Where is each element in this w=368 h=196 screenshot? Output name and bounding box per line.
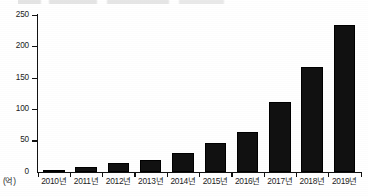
bar-2017 — [269, 102, 291, 172]
y-tick-label-100-wrap: 100 — [0, 105, 29, 114]
x-tick-2016 — [231, 172, 232, 177]
y-tick-label-200-wrap: 200 — [0, 42, 29, 51]
bar-2018 — [301, 67, 323, 171]
y-tick-100 — [32, 109, 38, 110]
y-tick-label-250-wrap: 250 — [0, 11, 29, 20]
y-axis-unit-label: (억) — [3, 177, 16, 186]
x-tick-2014 — [167, 172, 168, 177]
y-tick-label-100: 100 — [3, 105, 29, 113]
bar-2014 — [172, 153, 194, 171]
y-tick-250 — [32, 15, 38, 16]
y-tick-label-150-wrap: 150 — [0, 74, 29, 83]
y-tick-50 — [32, 140, 38, 141]
bar-2016 — [237, 132, 259, 172]
y-tick-200 — [32, 46, 38, 47]
x-tick-2010 — [38, 172, 39, 177]
y-tick-label-50: 50 — [3, 136, 29, 144]
y-tick-150 — [32, 78, 38, 79]
x-label-2019: 2019년 — [322, 177, 367, 186]
y-tick-label-250: 250 — [3, 11, 29, 19]
x-tick-2012 — [102, 172, 103, 177]
x-tick-2018 — [296, 172, 297, 177]
y-tick-label-0: 0 — [3, 168, 29, 176]
x-tick-2015 — [199, 172, 200, 177]
bar-2010 — [43, 170, 65, 172]
x-tick-2011 — [70, 172, 71, 177]
bar-2013 — [140, 160, 162, 172]
y-tick-label-200: 200 — [3, 42, 29, 50]
plot-area: 250 200 150 100 50 0 — [0, 0, 368, 196]
y-axis-line — [37, 14, 38, 173]
x-tick-2017 — [264, 172, 265, 177]
bar-2019 — [334, 25, 356, 172]
bar-2012 — [108, 163, 130, 172]
y-tick-label-50-wrap: 50 — [0, 136, 29, 145]
y-tick-label-150: 150 — [3, 74, 29, 82]
x-tick-end — [361, 172, 362, 177]
bar-chart: 250 200 150 100 50 0 — [0, 0, 368, 196]
x-tick-2013 — [134, 172, 135, 177]
bar-2011 — [75, 167, 97, 171]
bar-2015 — [205, 143, 227, 172]
y-tick-label-0-wrap: 0 — [0, 168, 29, 177]
x-tick-2019 — [328, 172, 329, 177]
